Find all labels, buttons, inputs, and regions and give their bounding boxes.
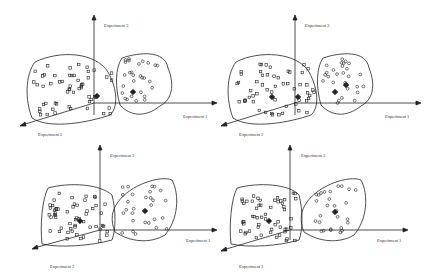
y-axis-label: Experiment 3 [305,23,329,28]
x-axis-label: Experiment 1 [186,238,210,243]
x-axis-label: Experiment 1 [377,238,401,243]
y-axis-label: Experiment 3 [301,153,325,158]
z-axis-label: Experiment 2 [50,264,74,269]
cluster-diagram [0,140,219,280]
y-axis-label: Experiment 3 [110,153,134,158]
cluster-diagram [219,140,438,280]
z-axis-label: Experiment 2 [239,132,263,137]
z-axis-label: Experiment 2 [239,264,263,269]
panel-bottom-right: Experiment 3 Experiment 1 Experiment 2 [219,140,438,280]
panel-top-right: Experiment 3 Experiment 1 Experiment 2 [219,0,438,140]
panel-bottom-left: Experiment 3 Experiment 1 Experiment 2 [0,140,219,280]
cluster-diagram [219,0,438,140]
z-axis-label: Experiment 2 [38,132,62,137]
x-axis-label: Experiment 1 [385,114,409,119]
x-axis-label: Experiment 1 [183,114,207,119]
y-axis-label: Experiment 3 [104,23,128,28]
cluster-diagram [0,0,219,140]
panel-top-left: Experiment 3 Experiment 1 Experiment 2 [0,0,219,140]
